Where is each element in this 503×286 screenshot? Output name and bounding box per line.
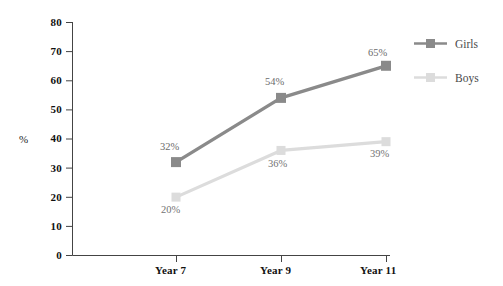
y-tick-label-0: 0 bbox=[36, 250, 62, 261]
y-tick-label-40: 40 bbox=[36, 133, 62, 144]
x-axis-ticks bbox=[177, 256, 387, 263]
chart-canvas bbox=[0, 0, 503, 286]
data-label-girls-year-11: 65% bbox=[368, 47, 387, 58]
legend-boys-swatch bbox=[414, 73, 447, 82]
series-girls-marker-3 bbox=[381, 61, 391, 71]
y-tick-label-30: 30 bbox=[36, 163, 62, 174]
series-boys bbox=[172, 137, 391, 201]
y-tick-label-70: 70 bbox=[36, 46, 62, 57]
y-tick-label-60: 60 bbox=[36, 75, 62, 86]
legend-item-boys[interactable]: Boys bbox=[455, 72, 479, 84]
data-label-boys-year-11: 39% bbox=[370, 148, 389, 159]
y-tick-label-20: 20 bbox=[36, 192, 62, 203]
line-chart: 80 70 60 50 40 30 20 10 0 % Year 7 Year … bbox=[0, 0, 503, 286]
series-boys-marker-1 bbox=[172, 193, 181, 202]
data-label-boys-year-7: 20% bbox=[161, 204, 180, 215]
series-boys-marker-3 bbox=[382, 137, 391, 146]
data-label-girls-year-7: 32% bbox=[160, 141, 179, 152]
y-tick-label-80: 80 bbox=[36, 17, 62, 28]
series-boys-marker-2 bbox=[277, 146, 286, 155]
y-axis-ticks bbox=[66, 23, 73, 256]
y-axis-title: % bbox=[19, 134, 28, 145]
y-tick-label-50: 50 bbox=[36, 104, 62, 115]
series-girls-marker-2 bbox=[276, 93, 286, 103]
legend-girls-swatch bbox=[414, 39, 447, 48]
data-label-boys-year-9: 36% bbox=[268, 158, 287, 169]
x-tick-label-year-11: Year 11 bbox=[360, 264, 396, 276]
data-label-girls-year-9: 54% bbox=[265, 76, 284, 87]
series-girls-marker-1 bbox=[171, 157, 181, 167]
x-tick-label-year-9: Year 9 bbox=[260, 264, 291, 276]
x-tick-label-year-7: Year 7 bbox=[155, 264, 186, 276]
y-tick-label-10: 10 bbox=[36, 221, 62, 232]
legend-item-girls[interactable]: Girls bbox=[455, 38, 478, 50]
